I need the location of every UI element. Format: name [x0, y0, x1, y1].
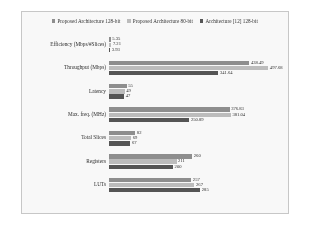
bar[interactable]: [109, 107, 230, 111]
bar-group-bars: 5.357.213.93: [109, 33, 288, 56]
bar-group-bars: 438.49497.68341.64: [109, 56, 288, 79]
bar-row: 67: [109, 141, 288, 145]
bar[interactable]: [109, 118, 189, 122]
legend-entry-1[interactable]: Proposed Architecture 80-bit: [127, 18, 193, 24]
bar-value-label: 67: [130, 141, 136, 146]
bar-value-label: 341.64: [218, 71, 232, 76]
bar-row: 438.49: [109, 61, 288, 65]
bar[interactable]: [109, 131, 135, 135]
bar-value-label: 3.93: [110, 48, 120, 53]
bar[interactable]: [109, 136, 131, 140]
bar-row: 341.64: [109, 71, 288, 75]
bar-group: Total Slices826967: [22, 127, 288, 150]
bar-row: 497.68: [109, 66, 288, 70]
bar[interactable]: [109, 178, 191, 182]
category-label: Registers: [22, 159, 109, 165]
bar[interactable]: [109, 113, 231, 117]
bar-group-bars: 257267285: [109, 173, 288, 196]
bar-group-bars: 554947: [109, 80, 288, 103]
bar-group-bars: 260211200: [109, 150, 288, 173]
bar-row: 49: [109, 89, 288, 93]
legend-label-0: Proposed Architecture 128-bit: [57, 18, 120, 24]
bar-row: 7.21: [109, 43, 288, 47]
legend-entry-0[interactable]: Proposed Architecture 128-bit: [52, 18, 120, 24]
bar-group-bars: 826967: [109, 127, 288, 150]
legend-swatch-icon-1: [127, 19, 130, 22]
bar[interactable]: [109, 188, 200, 192]
bar-group: Max. freq. (MHz)376.83381.04250.89: [22, 103, 288, 126]
bar-value-label: 200: [173, 165, 181, 170]
legend-label-2: Architecture [12] 128-bit: [205, 18, 257, 24]
category-label: LUTs: [22, 182, 109, 188]
bar-group: Efficiency (Mbps/#Slices)5.357.213.93: [22, 33, 288, 56]
bar-row: 3.93: [109, 48, 288, 52]
bar-group: Throughput (Mbps)438.49497.68341.64: [22, 56, 288, 79]
bar[interactable]: [109, 183, 194, 187]
bar-row: 267: [109, 183, 288, 187]
bar-value-label: 381.04: [231, 113, 245, 118]
bar-value-label: 250.89: [189, 118, 203, 123]
bar-value-label: 285: [200, 188, 208, 193]
bar-row: 285: [109, 188, 288, 192]
bar[interactable]: [109, 141, 130, 145]
bar[interactable]: [109, 94, 124, 98]
category-label: Throughput (Mbps): [22, 65, 109, 71]
category-label: Total Slices: [22, 135, 109, 141]
bar[interactable]: [109, 84, 127, 88]
bar-row: 211: [109, 159, 288, 163]
legend-swatch-icon-2: [200, 19, 203, 22]
bar-group-bars: 376.83381.04250.89: [109, 103, 288, 126]
bar-row: 376.83: [109, 107, 288, 111]
bar[interactable]: [109, 165, 173, 169]
bar-row: 5.35: [109, 37, 288, 41]
chart-legend: Proposed Architecture 128-bit Proposed A…: [22, 18, 288, 24]
chart-plot-area: Efficiency (Mbps/#Slices)5.357.213.93Thr…: [22, 33, 288, 211]
category-label: Efficiency (Mbps/#Slices): [22, 42, 109, 48]
bar[interactable]: [109, 61, 249, 65]
chart-figure: Proposed Architecture 128-bit Proposed A…: [21, 11, 289, 214]
category-label: Latency: [22, 89, 109, 95]
bar-value-label: 438.49: [249, 61, 263, 66]
bar[interactable]: [109, 159, 177, 163]
bar-value-label: 497.68: [268, 66, 282, 71]
category-label: Max. freq. (MHz): [22, 112, 109, 118]
bar-row: 260: [109, 154, 288, 158]
bar-group: LUTs257267285: [22, 173, 288, 196]
bar-row: 55: [109, 84, 288, 88]
legend-label-1: Proposed Architecture 80-bit: [133, 18, 193, 24]
bar-row: 250.89: [109, 118, 288, 122]
bar-value-label: 47: [124, 94, 130, 99]
bar-row: 200: [109, 165, 288, 169]
bar-group: Latency554947: [22, 80, 288, 103]
bar[interactable]: [109, 71, 218, 75]
bar-group: Registers260211200: [22, 150, 288, 173]
bar[interactable]: [109, 89, 125, 93]
bar-row: 47: [109, 94, 288, 98]
bar-value-label: 260: [192, 154, 200, 159]
legend-swatch-icon-0: [52, 19, 55, 22]
legend-entry-2[interactable]: Architecture [12] 128-bit: [200, 18, 258, 24]
bar[interactable]: [109, 66, 268, 70]
